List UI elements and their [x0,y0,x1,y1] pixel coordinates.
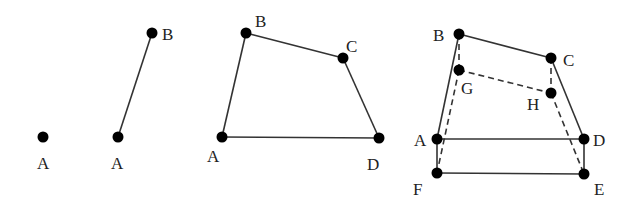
dashed-segment-HE [551,93,584,174]
labels-layer: AABABCDBCGHADFE [37,12,605,199]
point-B [241,28,252,39]
point-A [217,132,228,143]
solid-segment-BC [459,34,551,58]
solid-segment-AD [222,137,379,138]
point-B [147,28,158,39]
point-label-A: A [207,147,220,166]
point-label-F: F [413,180,422,199]
point-label-H: H [527,95,539,114]
point-label-C: C [563,51,574,70]
solid-segment-CD [343,58,379,138]
point-label-E: E [594,180,604,199]
point-A [113,132,124,143]
point-A [38,132,49,143]
point-label-D: D [367,155,379,174]
solid-segment-CD [551,58,584,139]
point-label-B: B [162,25,173,44]
solid-segment-AB [222,33,246,137]
point-label-A: A [37,154,50,173]
point-A [432,134,443,145]
point-label-C: C [346,37,357,56]
point-label-B: B [255,12,266,31]
point-label-A: A [111,154,124,173]
point-G [454,65,465,76]
point-F [432,168,443,179]
point-label-A: A [414,131,427,150]
point-D [579,134,590,145]
geometry-diagram: AABABCDBCGHADFE [0,0,637,201]
solid-segment-AB [118,33,152,137]
solid-segment-FE [437,173,584,174]
point-E [579,169,590,180]
point-label-G: G [461,79,473,98]
point-C [546,53,557,64]
point-label-B: B [433,26,444,45]
point-H [546,88,557,99]
solid-segment-BC [246,33,343,58]
point-B [454,29,465,40]
point-label-D: D [593,131,605,150]
point-D [374,133,385,144]
